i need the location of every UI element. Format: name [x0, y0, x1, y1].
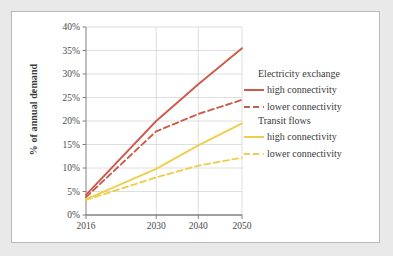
legend-swatch-solid-line-icon: [244, 85, 264, 95]
legend-group-header: Electricity exchange: [258, 68, 376, 79]
legend-item-label: high connectivity: [267, 84, 337, 95]
legend-item[interactable]: high connectivity: [244, 128, 376, 145]
legend-item[interactable]: lower connectivity: [244, 145, 376, 162]
screenshot-root: % of annual demand 0%5%10%15%20%25%30%35…: [0, 0, 393, 256]
legend-item-label: lower connectivity: [267, 148, 342, 159]
chart-legend: Electricity exchangehigh connectivitylow…: [244, 68, 376, 162]
legend-swatch-solid-line-icon: [244, 132, 264, 142]
legend-item-label: lower connectivity: [267, 101, 342, 112]
legend-item[interactable]: lower connectivity: [244, 98, 376, 115]
series-line: [86, 48, 242, 195]
legend-swatch-dashed-line-icon: [244, 149, 264, 159]
chart-card: % of annual demand 0%5%10%15%20%25%30%35…: [11, 11, 380, 243]
legend-item[interactable]: high connectivity: [244, 81, 376, 98]
legend-swatch-dashed-line-icon: [244, 102, 264, 112]
legend-item-label: high connectivity: [267, 131, 337, 142]
legend-group-header: Transit flows: [258, 115, 376, 126]
